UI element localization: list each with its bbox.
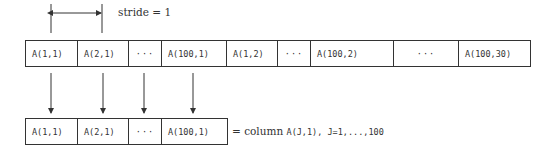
ellipsis-cell: ···	[394, 41, 459, 66]
column-major-stride-diagram: stride = 1 A(1,1)A(2,1)···A(100,1)A(1,2)…	[0, 0, 553, 155]
array-element-cell: A(1,1)	[26, 41, 78, 66]
column-caption-code: A(J,1), J=1,...,100	[287, 127, 384, 137]
array-element-cell: A(2,1)	[78, 119, 129, 144]
array-element-cell: A(100,30)	[459, 41, 530, 66]
array-element-cell: A(2,1)	[78, 41, 129, 66]
memory-layout-row: A(1,1)A(2,1)···A(100,1)A(1,2)···A(100,2)…	[25, 40, 531, 67]
down-arrows-icon	[51, 73, 193, 113]
array-element-cell: A(100,1)	[162, 119, 227, 144]
array-element-cell: A(1,1)	[26, 119, 78, 144]
ellipsis-cell: ···	[129, 119, 162, 144]
column-caption: = column A(J,1), J=1,...,100	[232, 125, 384, 137]
array-element-cell: A(100,1)	[162, 41, 227, 66]
array-element-cell: A(100,2)	[311, 41, 394, 66]
column-caption-prefix: = column	[232, 125, 287, 137]
stride-label: stride = 1	[118, 6, 171, 18]
ellipsis-cell: ···	[129, 41, 162, 66]
column-row: A(1,1)A(2,1)···A(100,1)	[25, 118, 228, 145]
array-element-cell: A(1,2)	[227, 41, 278, 66]
ellipsis-cell: ···	[278, 41, 311, 66]
stride-bracket-icon	[51, 4, 102, 33]
